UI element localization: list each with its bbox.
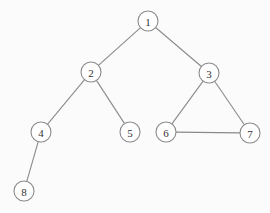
- nodes-layer: 12345678: [14, 11, 260, 201]
- node-label: 7: [247, 128, 253, 140]
- graph-diagram: 12345678: [0, 0, 270, 213]
- edge-4-8: [27, 142, 38, 182]
- node-6: 6: [156, 122, 176, 142]
- edge-1-3: [156, 27, 202, 66]
- edge-3-7: [215, 81, 245, 124]
- edge-6-7: [176, 132, 240, 133]
- node-4: 4: [31, 122, 51, 142]
- node-5: 5: [120, 122, 140, 142]
- edge-1-2: [98, 28, 140, 66]
- node-label: 3: [206, 68, 212, 80]
- node-3: 3: [199, 63, 219, 83]
- node-label: 2: [88, 67, 94, 79]
- edge-3-6: [172, 81, 203, 124]
- node-label: 6: [163, 127, 169, 139]
- node-8: 8: [14, 181, 34, 201]
- node-label: 8: [21, 186, 27, 198]
- node-label: 1: [145, 16, 151, 28]
- node-7: 7: [240, 123, 260, 143]
- edges-layer: [27, 27, 245, 181]
- node-label: 5: [127, 127, 133, 139]
- node-label: 4: [38, 127, 44, 139]
- edge-2-5: [96, 80, 124, 123]
- node-1: 1: [138, 11, 158, 31]
- node-2: 2: [81, 62, 101, 82]
- edge-2-4: [47, 80, 84, 125]
